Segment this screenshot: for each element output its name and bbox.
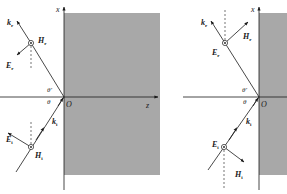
k-i-label: ki [52,117,58,127]
theta-label: θ [243,98,247,106]
right-panel: x O θ' θ kr Hr Er ki Ei Hi [183,5,287,190]
left-panel: x z O θ' θ kr Hr Er ki Ei Hi [0,5,160,190]
h-r-out-of-page-icon [28,40,33,45]
origin-label: O [261,100,267,109]
h-i-out-of-page-icon [28,144,33,149]
k-r-label: kr [7,18,14,28]
h-r-label: Hr [242,32,252,42]
h-i-label: Hi [34,151,43,161]
k-i-label: ki [246,117,252,127]
medium-region [64,13,160,175]
e-r-label: Er [5,61,14,71]
incident-ray [16,97,64,172]
h-r-label: Hr [37,36,47,46]
theta-prime-label: θ' [242,86,247,94]
k-i-arrow-mid [229,129,236,140]
reflection-diagram: x z O θ' θ kr Hr Er ki Ei Hi [0,0,287,194]
origin-label: O [66,100,72,109]
theta-label: θ [47,98,51,106]
x-axis-label: x [250,5,255,14]
k-r-label: kr [201,18,208,28]
k-i-arrow-tip [58,98,63,106]
e-i-label: Ei [211,140,219,150]
k-r-arrow [211,21,225,43]
k-i-arrow-tip [253,98,258,106]
medium-region [259,13,287,175]
x-axis-label: x [55,5,60,14]
e-i-out-of-page-icon [221,144,226,149]
h-i-label: Hi [234,170,243,180]
e-r-label: Er [211,48,220,58]
k-i-arrow-mid [36,129,43,140]
k-r-arrow [17,21,31,43]
e-r-out-of-page-icon [222,40,227,45]
theta-prime-label: θ' [47,86,52,94]
h-i-arrow [224,147,244,162]
e-i-label: Ei [5,135,13,145]
